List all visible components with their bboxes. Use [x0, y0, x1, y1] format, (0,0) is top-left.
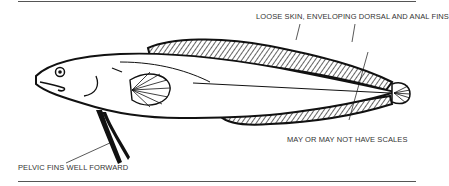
- label-loose-skin: LOOSE SKIN, ENVELOPING DORSAL AND ANAL F…: [256, 12, 449, 21]
- label-pelvic-fins: PELVIC FINS WELL FORWARD: [18, 163, 128, 172]
- label-scales: MAY OR MAY NOT HAVE SCALES: [287, 135, 408, 144]
